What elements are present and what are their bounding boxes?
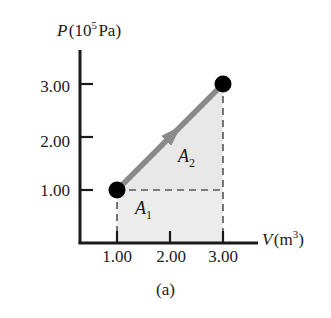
x-axis-tick-label-2: 2.00 bbox=[148, 247, 194, 267]
x-axis-tick-label-3: 3.00 bbox=[200, 247, 246, 267]
data-point-final-state bbox=[215, 76, 232, 93]
pv-diagram-figure: P (105 Pa) V (m3) 3.00 2.00 1.00 1.00 2.… bbox=[0, 0, 331, 318]
y-axis-tick-label-1: 1.00 bbox=[24, 181, 70, 201]
y-axis-tick-label-3: 3.00 bbox=[24, 77, 70, 97]
annotation-a2-subscript: 2 bbox=[189, 156, 195, 170]
y-axis-prefix-base: 10 bbox=[74, 21, 91, 40]
x-axis-title: V (m3) bbox=[262, 228, 304, 250]
x-axis-unit: m bbox=[279, 230, 292, 249]
annotation-a1-symbol: A bbox=[135, 198, 146, 218]
x-axis-symbol: V bbox=[262, 230, 272, 249]
y-axis-symbol: P bbox=[57, 21, 67, 40]
y-axis-tick-label-2: 2.00 bbox=[24, 132, 70, 152]
annotation-a2-symbol: A bbox=[178, 146, 189, 166]
annotation-a1-subscript: 1 bbox=[146, 208, 152, 222]
annotation-area-a2: A2 bbox=[178, 146, 195, 171]
annotation-area-a1: A1 bbox=[135, 198, 152, 223]
pv-diagram-canvas bbox=[0, 0, 331, 318]
y-axis-title: P (105 Pa) bbox=[57, 19, 121, 41]
x-axis-tick-label-1: 1.00 bbox=[94, 247, 140, 267]
y-axis-unit: Pa bbox=[98, 21, 115, 40]
figure-caption: (a) bbox=[0, 280, 331, 300]
data-point-initial-state bbox=[109, 182, 126, 199]
